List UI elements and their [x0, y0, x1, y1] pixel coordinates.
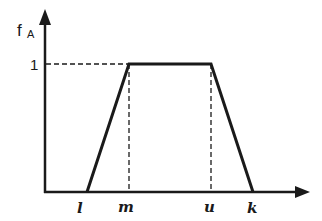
y-axis-label-subscript: A — [27, 28, 35, 40]
y-tick-one: 1 — [30, 56, 38, 73]
y-axis-arrow-icon — [39, 9, 51, 25]
x-label-l: l — [77, 199, 83, 217]
x-label-u: u — [204, 198, 215, 216]
x-axis-arrow-icon — [295, 186, 310, 198]
y-axis-label: f — [17, 21, 22, 40]
membership-function-curve — [87, 64, 253, 192]
membership-diagram: f A 1 l m u k — [0, 0, 322, 221]
x-label-m: m — [118, 198, 134, 216]
x-label-k: k — [247, 199, 257, 217]
